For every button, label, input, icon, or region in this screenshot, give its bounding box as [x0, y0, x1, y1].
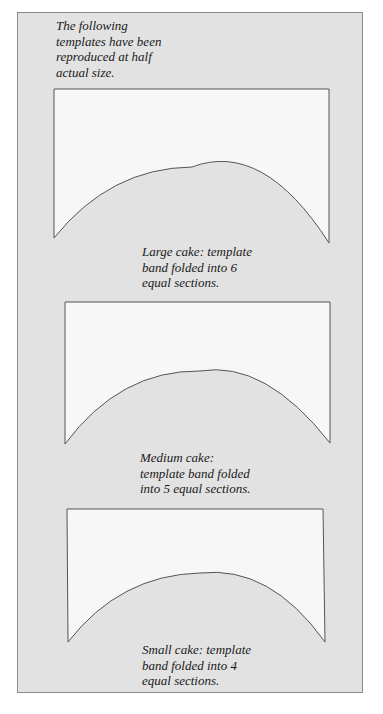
templates-drawing [0, 0, 383, 714]
caption-line: Small cake: template [142, 642, 251, 658]
small-cake-template [67, 509, 325, 642]
caption-line: into 5 equal sections. [140, 481, 251, 497]
medium-cake-template [65, 302, 330, 444]
caption-line: equal sections. [142, 673, 251, 689]
caption-line: band folded into 6 [142, 260, 252, 276]
large-cake-template [54, 89, 329, 243]
medium-cake-caption: Medium cake: template band folded into 5… [140, 450, 251, 497]
large-cake-caption: Large cake: template band folded into 6 … [142, 244, 252, 291]
caption-line: template band folded [140, 466, 251, 482]
caption-line: Large cake: template [142, 244, 252, 260]
small-cake-caption: Small cake: template band folded into 4 … [142, 642, 251, 689]
caption-line: equal sections. [142, 275, 252, 291]
caption-line: Medium cake: [140, 450, 251, 466]
caption-line: band folded into 4 [142, 658, 251, 674]
